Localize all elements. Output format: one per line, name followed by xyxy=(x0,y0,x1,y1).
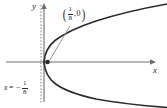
y-axis-label: y xyxy=(32,2,36,11)
focus-x-denominator: 8 xyxy=(68,15,74,22)
x-axis xyxy=(6,59,156,65)
x-axis-arrowhead xyxy=(150,59,156,65)
focus-coordinate-label: ( 1 8 , 0 ) xyxy=(62,6,86,22)
directrix-equation-label: x = − 1 8 xyxy=(4,80,28,96)
focus-point-marker xyxy=(45,60,50,65)
y-axis-arrowhead xyxy=(41,3,47,9)
directrix-equals-sign: = xyxy=(9,84,14,92)
parabola-figure: y x ( 1 8 , 0 ) x = − 1 8 xyxy=(0,0,167,108)
focus-close-paren: ) xyxy=(81,9,85,20)
focus-y-value: 0 xyxy=(77,10,81,18)
directrix-numerator: 1 xyxy=(22,80,28,87)
directrix-fraction: 1 8 xyxy=(22,80,28,96)
directrix-variable: x xyxy=(4,84,8,92)
focus-x-numerator: 1 xyxy=(68,6,74,13)
focus-x-fraction: 1 8 xyxy=(68,6,74,22)
directrix-minus-sign: − xyxy=(16,84,21,92)
focus-open-paren: ( xyxy=(63,9,67,20)
parabola-lower-branch xyxy=(44,62,167,108)
directrix-denominator: 8 xyxy=(22,89,28,96)
x-axis-label: x xyxy=(153,66,157,75)
